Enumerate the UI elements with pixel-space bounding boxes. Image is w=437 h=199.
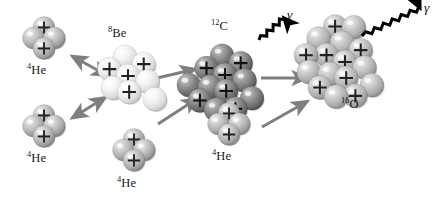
nucleus-he4-top-left	[23, 17, 67, 61]
mass-number: 12	[211, 17, 220, 27]
element-symbol: He	[121, 176, 136, 190]
nucleon-sphere	[143, 87, 167, 111]
mass-number: 16	[341, 95, 350, 105]
nuclei-group	[23, 14, 385, 172]
gamma-c12	[259, 18, 286, 40]
label-he4-right-bottom: 4He	[212, 150, 231, 163]
nucleus-he4-center-bottom	[113, 129, 157, 173]
arrow-he4-right-to-o16	[262, 101, 308, 127]
label-gamma-c12: γ	[287, 8, 292, 22]
element-symbol: He	[216, 149, 231, 163]
arrow-he4-bottom-to-be8	[72, 97, 106, 118]
element-symbol: He	[31, 63, 46, 77]
label-gamma-o16: γ	[424, 1, 429, 15]
nucleosynthesis-diagram: 4He 4He 8Be 4He 12C 4He 16O γ γ	[0, 0, 437, 199]
label-be8: 8Be	[108, 27, 126, 40]
gamma-o16	[362, 6, 420, 36]
element-symbol: O	[350, 97, 359, 111]
element-symbol: C	[220, 19, 228, 33]
nucleus-be8	[97, 45, 167, 112]
nucleus-o16	[294, 14, 385, 109]
label-c12: 12C	[211, 20, 228, 33]
element-symbol: Be	[112, 26, 126, 40]
label-he4-bottom-left: 4He	[27, 152, 46, 165]
label-o16: 16O	[341, 98, 359, 111]
element-symbol: He	[31, 151, 46, 165]
nucleus-he4-bottom-left	[23, 105, 67, 149]
label-he4-center-bottom: 4He	[117, 177, 136, 190]
label-he4-top-left: 4He	[27, 64, 46, 77]
